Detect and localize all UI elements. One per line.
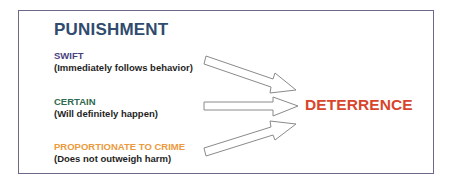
deterrence-label: DETERRENCE xyxy=(305,96,413,114)
arrows-layer xyxy=(0,0,456,189)
arrow-proportionate-icon xyxy=(204,121,296,156)
arrow-certain-icon xyxy=(204,97,298,116)
arrow-swift-icon xyxy=(204,56,296,93)
